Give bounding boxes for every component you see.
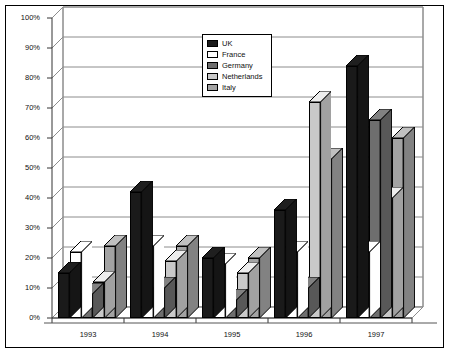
- legend-item-italy[interactable]: Italy: [207, 82, 267, 93]
- y-tick-label: 50%: [12, 164, 40, 172]
- y-tick-label: 20%: [12, 254, 40, 262]
- chart-figure: 0%10%20%30%40%50%60%70%80%90%100% 199319…: [0, 0, 449, 364]
- x-tick-label: 1995: [202, 331, 262, 339]
- legend-item-netherlands[interactable]: Netherlands: [207, 71, 267, 82]
- bar-uk-1994: [130, 181, 153, 318]
- x-tick-label: 1993: [58, 331, 118, 339]
- legend-label: Germany: [222, 61, 253, 70]
- bar-shape: [346, 55, 369, 318]
- y-tick-label: 10%: [12, 284, 40, 292]
- legend-swatch-icon: [207, 62, 218, 69]
- y-tick-label: 30%: [12, 224, 40, 232]
- y-tick-label: 70%: [12, 104, 40, 112]
- bar-shape: [274, 199, 297, 318]
- bar-shape: [130, 181, 153, 318]
- bar-uk-1997: [346, 55, 369, 318]
- x-tick-label: 1996: [274, 331, 334, 339]
- bar-uk-1996: [274, 199, 297, 318]
- legend-swatch-icon: [207, 73, 218, 80]
- legend-item-france[interactable]: France: [207, 49, 267, 60]
- legend-label: UK: [222, 39, 232, 48]
- y-tick-label: 90%: [12, 44, 40, 52]
- x-tick-label: 1994: [130, 331, 190, 339]
- y-tick-label: 40%: [12, 194, 40, 202]
- y-tick-label: 60%: [12, 134, 40, 142]
- bar-uk-1993: [58, 262, 81, 318]
- bar-shape: [202, 247, 225, 318]
- legend-label: France: [222, 50, 245, 59]
- y-tick-label: 100%: [12, 14, 40, 22]
- bar-shape: [58, 262, 81, 318]
- legend-label: Italy: [222, 83, 236, 92]
- legend-item-uk[interactable]: UK: [207, 38, 267, 49]
- y-tick-label: 80%: [12, 74, 40, 82]
- y-tick-label: 0%: [12, 314, 40, 322]
- legend-swatch-icon: [207, 40, 218, 47]
- x-tick-label: 1997: [346, 331, 406, 339]
- chart-legend: UKFranceGermanyNetherlandsItaly: [202, 34, 272, 97]
- legend-swatch-icon: [207, 51, 218, 58]
- bar-uk-1995: [202, 247, 225, 318]
- plot-area: 0%10%20%30%40%50%60%70%80%90%100% 199319…: [0, 0, 449, 364]
- legend-swatch-icon: [207, 84, 218, 91]
- legend-label: Netherlands: [222, 72, 262, 81]
- legend-item-germany[interactable]: Germany: [207, 60, 267, 71]
